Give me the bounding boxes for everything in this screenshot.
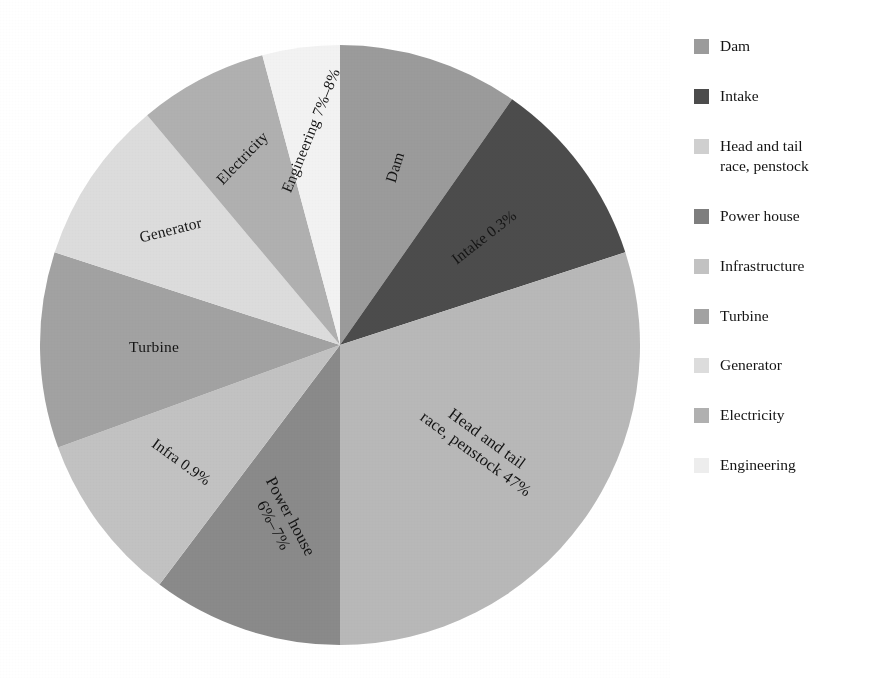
legend-item-label: Infrastructure <box>720 256 804 277</box>
legend-swatch-icon <box>694 39 709 54</box>
legend-item-dam[interactable]: Dam <box>694 36 874 57</box>
legend-swatch-icon <box>694 358 709 373</box>
legend-item-label: Turbine <box>720 306 769 327</box>
legend-item-label: Engineering <box>720 455 796 476</box>
legend-swatch-icon <box>694 309 709 324</box>
pie-chart-area: DamIntake 0.3%Head and tailrace, penstoc… <box>0 0 670 678</box>
legend-item-label: Power house <box>720 206 800 227</box>
legend-swatch-icon <box>694 458 709 473</box>
pie-slice-label-line: Turbine <box>129 338 179 355</box>
legend-item-power-house[interactable]: Power house <box>694 206 874 227</box>
legend-swatch-icon <box>694 139 709 154</box>
legend-item-intake[interactable]: Intake <box>694 86 874 107</box>
legend-swatch-icon <box>694 89 709 104</box>
legend-item-label: Head and tail race, penstock <box>720 136 809 178</box>
legend-item-label: Dam <box>720 36 750 57</box>
legend-item-engineering[interactable]: Engineering <box>694 455 874 476</box>
legend-item-label: Generator <box>720 355 782 376</box>
pie-slice-label-turbine: Turbine <box>129 338 179 355</box>
legend-swatch-icon <box>694 408 709 423</box>
legend-item-generator[interactable]: Generator <box>694 355 874 376</box>
legend-item-turbine[interactable]: Turbine <box>694 306 874 327</box>
legend-item-label: Electricity <box>720 405 785 426</box>
legend-item-head-and-tail-race-penstock[interactable]: Head and tail race, penstock <box>694 136 874 178</box>
pie-chart-figure: DamIntake 0.3%Head and tailrace, penstoc… <box>0 0 884 678</box>
legend-item-infrastructure[interactable]: Infrastructure <box>694 256 874 277</box>
pie-chart-svg: DamIntake 0.3%Head and tailrace, penstoc… <box>0 0 670 678</box>
legend-swatch-icon <box>694 259 709 274</box>
legend-item-label: Intake <box>720 86 759 107</box>
legend-item-electricity[interactable]: Electricity <box>694 405 874 426</box>
chart-legend: DamIntakeHead and tail race, penstockPow… <box>694 36 874 505</box>
legend-swatch-icon <box>694 209 709 224</box>
